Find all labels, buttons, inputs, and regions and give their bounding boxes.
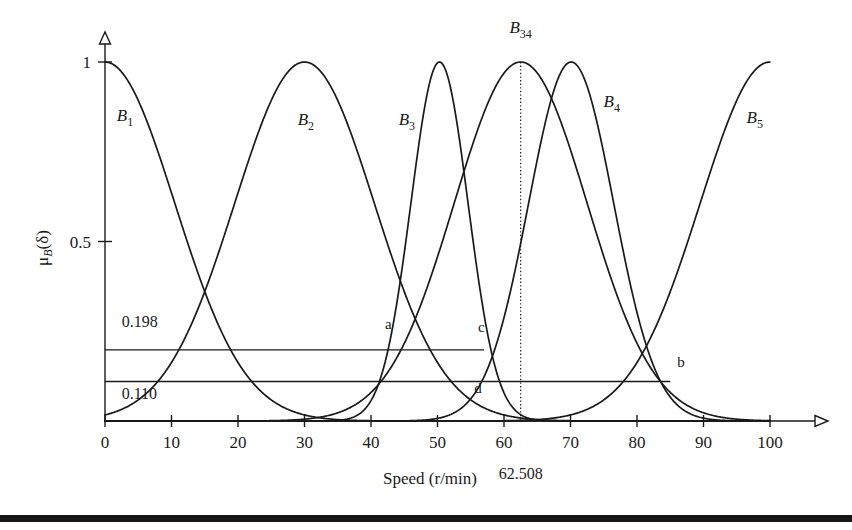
x-tick-label-40: 40 [363,433,380,452]
x-tick-label-50: 50 [429,433,446,452]
x-tick-label-90: 90 [695,433,712,452]
point-label-a: a [385,316,392,332]
curve-label-subscript-B4: 4 [614,101,620,115]
curve-B4 [105,62,770,421]
curve-label-subscript-B2: 2 [308,119,314,133]
curve-label-subscript-B1: 1 [127,115,133,129]
guide-annotation-labels-group: 62.508 [499,465,543,482]
y-axis-title-argument: (δ) [33,230,52,249]
x-axis-tick-labels: 0102030405060708090100 [101,433,783,452]
guide-label-b34-centroid: 62.508 [499,465,543,482]
curve-label-subscript-B5: 5 [757,117,763,131]
x-tick-label-100: 100 [757,433,783,452]
curve-label-B5: B5 [747,108,763,131]
membership-function-chart: 0102030405060708090100 0.51 B1B2B3B34B4B… [0,0,852,530]
membership-curves-group [105,62,770,421]
y-tick-label-0.5: 0.5 [70,233,91,252]
curve-B3 [105,62,770,421]
x-tick-label-30: 30 [296,433,313,452]
level-label-alpha-upper: 0.198 [122,313,158,330]
curve-B1 [105,62,770,421]
point-label-b: b [677,354,685,370]
curve-label-B1: B1 [117,106,133,129]
y-tick-label-1: 1 [83,53,92,72]
curve-label-subscript-B3: 3 [409,119,415,133]
bottom-rule-divider [0,515,852,522]
curve-label-letter-B5: B [747,108,758,127]
x-tick-label-20: 20 [230,433,247,452]
curve-label-B3: B3 [399,110,415,133]
curve-labels-group: B1B2B3B34B4B5 [117,18,763,133]
intersection-point-labels-group: acdb [385,316,685,396]
curve-label-B2: B2 [298,110,314,133]
curve-B5 [105,62,770,421]
point-label-c: c [478,319,485,335]
curve-label-letter-B1: B [117,106,128,125]
y-axis-tick-labels: 0.51 [70,53,91,252]
x-tick-label-10: 10 [163,433,180,452]
axes-group [100,32,829,427]
curve-label-subscript-B34: 34 [520,27,532,41]
curve-B2 [105,62,770,421]
curve-label-letter-B3: B [399,110,410,129]
curve-B34 [105,62,770,421]
x-axis-arrowhead [815,416,828,427]
y-axis-title-mu: μ [33,257,52,266]
y-axis-title-group: μB(δ) [33,230,55,266]
curve-label-letter-B2: B [298,110,309,129]
y-axis-title: μB(δ) [33,230,55,266]
x-tick-label-70: 70 [562,433,579,452]
figure-container: 0102030405060708090100 0.51 B1B2B3B34B4B… [0,0,852,530]
level-value-labels-group: 0.1980.110 [122,313,158,402]
x-tick-label-0: 0 [101,433,110,452]
curve-label-letter-B34: B [509,18,520,37]
x-tick-label-80: 80 [629,433,646,452]
axis-titles-group: Speed (r/min) μB(δ) [33,230,477,488]
x-axis-title: Speed (r/min) [383,469,477,488]
level-label-alpha-lower: 0.110 [122,385,157,402]
point-label-d: d [474,380,482,396]
curve-label-B34: B34 [509,18,531,41]
y-axis-arrowhead [100,32,111,44]
curve-label-letter-B4: B [604,92,615,111]
curve-label-B4: B4 [604,92,620,115]
x-tick-label-60: 60 [496,433,513,452]
